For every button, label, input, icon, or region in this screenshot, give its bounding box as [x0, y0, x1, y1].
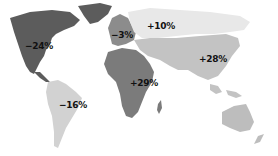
region-south-america	[46, 80, 82, 148]
label-europe: −3%	[111, 31, 133, 40]
region-new-zealand	[254, 134, 264, 144]
label-russia: +10%	[147, 22, 175, 31]
label-asia: +28%	[199, 55, 227, 64]
label-africa: +29%	[130, 79, 158, 88]
region-central-america	[34, 72, 50, 82]
greenland-shape	[78, 3, 112, 24]
region-madagascar	[157, 100, 162, 114]
label-north-america: −24%	[25, 42, 53, 51]
region-oceania	[222, 104, 254, 132]
label-south-america: −16%	[59, 101, 87, 110]
region-se-asia	[210, 84, 242, 98]
